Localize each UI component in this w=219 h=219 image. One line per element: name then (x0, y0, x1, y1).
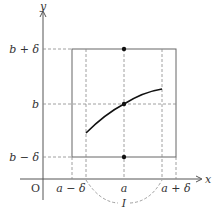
interval-label: I (121, 197, 127, 210)
x-tick-a-plus-delta: a + δ (161, 182, 191, 195)
origin-label: O (31, 182, 40, 195)
x-tick-a-minus-delta: a − δ (56, 182, 86, 195)
y-tick-b: b (32, 98, 39, 111)
x-tick-a: a (121, 182, 128, 195)
diagram: y x O b + δ b b − δ a − δ a a + δ I (0, 0, 219, 219)
y-axis-label: y (39, 0, 47, 13)
point-center (122, 102, 126, 106)
y-tick-b-minus-delta: b − δ (9, 151, 39, 164)
x-axis-label: x (205, 173, 212, 186)
y-tick-b-plus-delta: b + δ (9, 43, 39, 56)
point-top (122, 47, 126, 51)
point-bottom (122, 155, 126, 159)
